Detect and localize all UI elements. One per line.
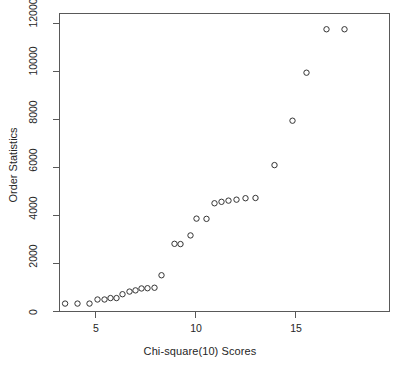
y-tick-label-10000: 10000 <box>27 46 39 75</box>
chi-square-qq-plot: Order Statistics Chi-square(10) Scores 0… <box>0 0 400 368</box>
x-tick-label-10: 10 <box>181 322 211 334</box>
x-axis-ticks <box>96 312 296 319</box>
x-tick-label-15: 15 <box>281 322 311 334</box>
y-tick-label-4000: 4000 <box>27 196 39 219</box>
y-axis-label: Order Statistics <box>7 127 19 202</box>
y-axis-ticks <box>53 24 60 312</box>
y-tick-label-12000: 12000 <box>27 0 39 28</box>
x-axis-label: Chi-square(10) Scores <box>0 345 400 357</box>
y-axis-label-container: Order Statistics <box>0 0 26 330</box>
plot-canvas <box>0 0 400 368</box>
y-tick-label-0: 0 <box>27 309 39 315</box>
y-tick-label-8000: 8000 <box>27 100 39 123</box>
y-tick-label-6000: 6000 <box>27 148 39 171</box>
plot-frame <box>60 14 390 312</box>
y-tick-label-2000: 2000 <box>27 244 39 267</box>
x-tick-label-5: 5 <box>81 322 111 334</box>
